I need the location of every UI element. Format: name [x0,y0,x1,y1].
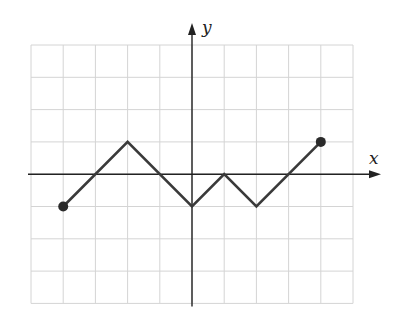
y-axis-label: y [202,17,212,37]
y-axis-arrow-icon [188,23,196,35]
x-axis-arrow-icon [369,170,381,178]
axes [28,23,381,306]
coordinate-plane [0,0,403,315]
x-axis-label: x [369,148,379,168]
start-point-dot [58,202,68,212]
end-point-dot [316,137,326,147]
